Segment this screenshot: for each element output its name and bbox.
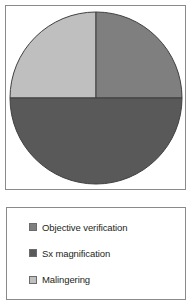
legend-label-objective-verification: Objective verification	[42, 222, 127, 233]
pie-chart	[6, 6, 185, 189]
legend-item-list: Objective verification Sx magnification …	[7, 208, 185, 299]
pie-slice-malingering	[10, 12, 96, 98]
legend-swatch-sx-magnification-icon	[29, 249, 37, 257]
pie-slice-objective-verification	[96, 12, 182, 98]
pie-chart-svg	[6, 6, 185, 189]
legend-item-malingering: Malingering	[7, 272, 185, 288]
legend-label-malingering: Malingering	[42, 274, 90, 285]
legend-swatch-malingering-icon	[29, 276, 37, 284]
plot-area-frame	[5, 5, 186, 190]
legend-label-sx-magnification: Sx magnification	[42, 248, 110, 259]
pie-slice-sx-magnification	[10, 98, 182, 184]
pie-chart-figure: Objective verification Sx magnification …	[0, 0, 194, 307]
legend-item-objective-verification: Objective verification	[7, 219, 185, 235]
legend-swatch-objective-verification-icon	[29, 223, 37, 231]
chart-legend: Objective verification Sx magnification …	[6, 207, 186, 300]
legend-item-sx-magnification: Sx magnification	[7, 245, 185, 261]
